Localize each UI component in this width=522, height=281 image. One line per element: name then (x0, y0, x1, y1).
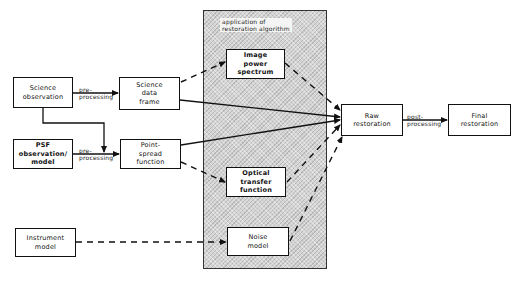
edge-scidata-to-raw (180, 100, 340, 117)
edge-label-post-processing: post- processing (407, 113, 441, 127)
edge-noise-to-raw (290, 137, 342, 241)
edge-psf-to-raw (181, 120, 340, 145)
node-noise-model: Noise model (227, 227, 289, 256)
node-science-data-frame: Science data frame (119, 77, 180, 110)
node-science-observation: Science observation (13, 77, 73, 108)
edge-otf-to-raw (287, 125, 340, 182)
edge-psf-to-otf (181, 162, 225, 182)
node-raw-restoration: Raw restoration (341, 104, 403, 136)
node-optical-transfer-function: Optical transfer function (226, 167, 286, 197)
node-instrument-model: Instrument model (15, 228, 76, 257)
edge-label-pre-processing-1: pre- processing (79, 86, 113, 100)
node-psf-observation: PSF observation/ model (13, 139, 73, 169)
edge-scidata-to-ips (181, 62, 225, 82)
edge-label-pre-processing-2: pre- processing (79, 147, 113, 161)
edge-ips-to-raw (285, 63, 340, 110)
node-point-spread-function: Point- spread function (120, 139, 181, 169)
node-final-restoration: Final restoration (448, 104, 511, 136)
node-image-power-spectrum: Image power spectrum (226, 49, 285, 79)
